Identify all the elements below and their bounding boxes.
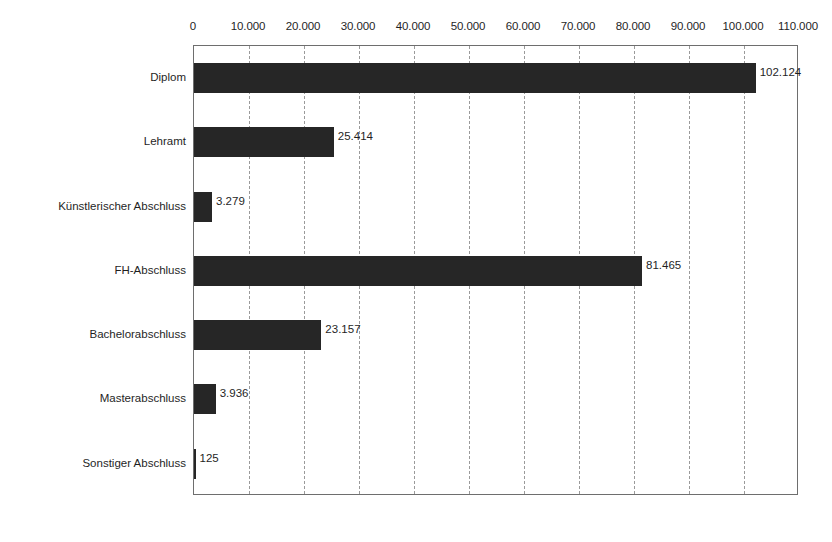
category-label: Sonstiger Abschluss <box>0 458 186 470</box>
bar-row: 125 <box>194 432 797 496</box>
x-tick-label: 110.000 <box>778 20 818 32</box>
bar-row: 25.414 <box>194 110 797 174</box>
bar <box>194 63 756 93</box>
bar-row: 23.157 <box>194 303 797 367</box>
x-tick-label: 90.000 <box>671 20 706 32</box>
bar <box>194 256 642 286</box>
x-axis-tick-labels: 010.00020.00030.00040.00050.00060.00070.… <box>193 20 798 38</box>
bar <box>194 192 212 222</box>
bar-value-label: 3.936 <box>220 388 249 400</box>
bar-value-label: 102.124 <box>760 67 802 79</box>
x-tick-label: 100.000 <box>723 20 764 32</box>
bar-value-label: 3.279 <box>216 196 245 208</box>
x-tick-label: 80.000 <box>616 20 651 32</box>
category-axis-labels: DiplomLehramtKünstlerischer AbschlussFH-… <box>0 45 186 495</box>
bar <box>194 384 216 414</box>
bar-chart: 010.00020.00030.00040.00050.00060.00070.… <box>0 0 832 542</box>
bar <box>194 320 321 350</box>
x-tick-label: 60.000 <box>506 20 541 32</box>
category-label: Diplom <box>0 72 186 84</box>
bar-value-label: 125 <box>200 453 219 465</box>
bars-layer: 102.12425.4143.27981.46523.1573.936125 <box>194 46 797 494</box>
category-label: Künstlerischer Abschluss <box>0 201 186 213</box>
x-tick-label: 20.000 <box>286 20 321 32</box>
category-label: FH-Abschluss <box>0 265 186 277</box>
x-tick-label: 0 <box>190 20 196 32</box>
category-label: Masterabschluss <box>0 393 186 405</box>
bar-value-label: 25.414 <box>338 131 373 143</box>
bar-value-label: 23.157 <box>325 324 360 336</box>
x-tick-label: 40.000 <box>396 20 431 32</box>
bar-row: 81.465 <box>194 239 797 303</box>
bar-row: 102.124 <box>194 46 797 110</box>
x-tick-label: 70.000 <box>561 20 596 32</box>
category-label: Lehramt <box>0 136 186 148</box>
bar <box>194 449 196 479</box>
bar <box>194 127 334 157</box>
x-tick-label: 50.000 <box>451 20 486 32</box>
bar-value-label: 81.465 <box>646 260 681 272</box>
bar-row: 3.279 <box>194 175 797 239</box>
x-tick-label: 10.000 <box>231 20 266 32</box>
x-tick-label: 30.000 <box>341 20 376 32</box>
bar-row: 3.936 <box>194 367 797 431</box>
plot-area: 102.12425.4143.27981.46523.1573.936125 <box>193 45 798 495</box>
category-label: Bachelorabschluss <box>0 329 186 341</box>
